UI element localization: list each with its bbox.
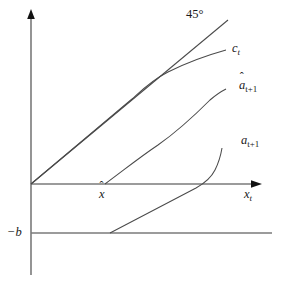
label-minus-b: −b <box>7 226 22 239</box>
x-axis-arrowhead-icon <box>251 180 262 188</box>
c-t-curve <box>31 50 226 184</box>
label-45-degrees: 45° <box>186 8 204 21</box>
y-axis <box>27 9 35 275</box>
label-a-hat-t-plus-1: ˆat+1 <box>239 79 257 94</box>
a-hat-t-plus-1-curve <box>105 89 226 184</box>
label-x-hat: ˆx <box>99 188 105 201</box>
economics-phase-diagram: 45° ct ˆat+1 at+1 xt ˆx −b <box>0 0 287 290</box>
label-x-axis: xt <box>244 188 252 203</box>
a-t-plus-1-curve <box>110 148 222 233</box>
label-x-hat-group: ˆx <box>99 188 105 201</box>
hat-accent-icon: ˆ <box>99 181 103 193</box>
label-a-t-plus-1: at+1 <box>241 134 259 149</box>
label-a-hat-base-group: ˆa <box>239 79 245 92</box>
label-c-t: ct <box>232 42 240 57</box>
x-axis <box>31 180 262 188</box>
label-a-subscript: t+1 <box>247 139 259 149</box>
y-axis-arrowhead-icon <box>27 9 35 19</box>
label-c-t-subscript: t <box>238 47 241 57</box>
label-x-axis-subscript: t <box>250 193 253 203</box>
hat-accent-icon: ˆ <box>240 72 244 84</box>
label-a-hat-subscript: t+1 <box>245 84 257 94</box>
